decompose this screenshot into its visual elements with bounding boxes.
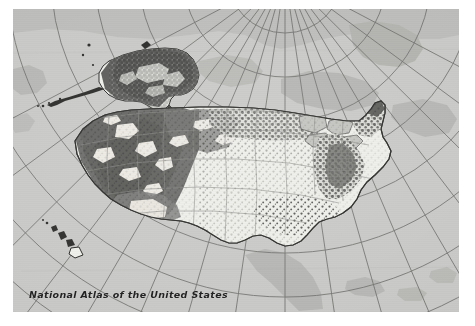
map-graphic: [13, 9, 459, 312]
map-image: National Atlas of the United States: [13, 9, 459, 312]
screenshot-root: National Atlas of the United States: [0, 0, 475, 326]
